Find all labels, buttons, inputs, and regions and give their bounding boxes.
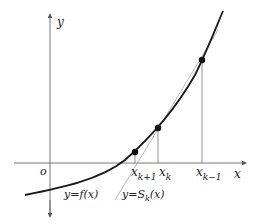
y-axis-label: y bbox=[56, 15, 64, 29]
secant-label: y=Sk(x) bbox=[121, 188, 165, 203]
label-xk1: xk+1 bbox=[131, 165, 157, 182]
point-xk bbox=[155, 125, 161, 131]
curve-label: y=f(x) bbox=[63, 188, 98, 201]
label-xkm1: xk−1 bbox=[196, 165, 222, 182]
function-curve bbox=[25, 11, 223, 195]
diagram-container: y x o xk+1 xk xk−1 y=f(x) y=Sk(x) bbox=[0, 0, 258, 224]
label-xk: xk bbox=[159, 165, 171, 182]
secant-method-diagram: y x o xk+1 xk xk−1 y=f(x) y=Sk(x) bbox=[0, 0, 258, 224]
point-xk1 bbox=[132, 149, 138, 155]
point-xkm1 bbox=[199, 57, 205, 63]
origin-label: o bbox=[40, 165, 47, 178]
x-axis-label: x bbox=[234, 167, 241, 181]
